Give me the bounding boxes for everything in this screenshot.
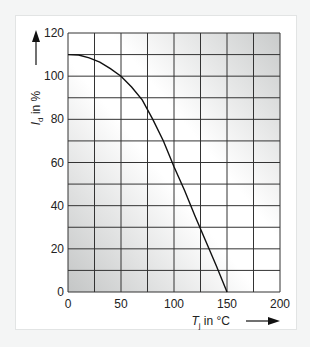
y-tick-label: 60 bbox=[51, 156, 65, 170]
x-tick-label: 100 bbox=[164, 297, 184, 311]
y-tick-label: 80 bbox=[51, 112, 65, 126]
x-tick-label: 200 bbox=[270, 297, 290, 311]
y-axis-arrow-icon bbox=[32, 30, 40, 65]
derating-chart: 020406080100120 050100150200 Id in % Tj … bbox=[0, 0, 310, 347]
y-tick-label: 0 bbox=[57, 285, 64, 299]
y-axis-ticks: 020406080100120 bbox=[44, 26, 64, 299]
x-axis-ticks: 050100150200 bbox=[65, 297, 291, 311]
y-axis-label: Id in % bbox=[29, 90, 45, 125]
x-axis-label: Tj in °C bbox=[191, 314, 230, 330]
y-tick-label: 20 bbox=[51, 242, 65, 256]
x-axis-arrow-icon bbox=[246, 317, 280, 325]
x-tick-label: 50 bbox=[114, 297, 128, 311]
svg-text:Id in %: Id in % bbox=[29, 90, 45, 125]
y-tick-label: 120 bbox=[44, 26, 64, 40]
x-tick-label: 150 bbox=[217, 297, 237, 311]
y-tick-label: 100 bbox=[44, 69, 64, 83]
x-tick-label: 0 bbox=[65, 297, 72, 311]
y-tick-label: 40 bbox=[51, 199, 65, 213]
